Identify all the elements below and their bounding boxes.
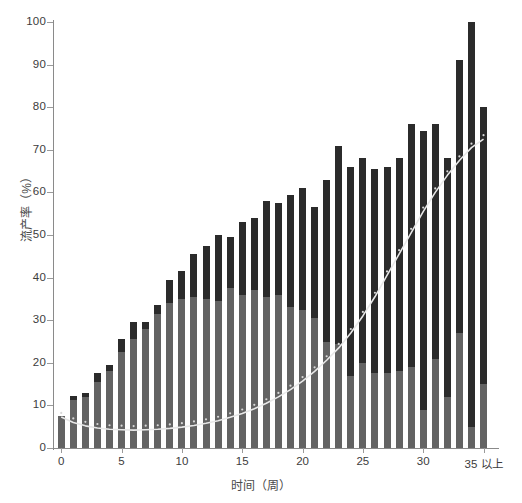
y-tick [47, 192, 53, 193]
y-tick-label: 20 [0, 356, 46, 368]
x-axis-line [53, 448, 499, 449]
x-tick-label: 35 以上 [465, 455, 503, 471]
curve-marker [386, 270, 388, 272]
curve-marker [229, 412, 231, 414]
x-tick-label: 15 [236, 455, 249, 467]
curve-marker [470, 143, 472, 145]
x-tick-label: 5 [118, 455, 124, 467]
x-tick [61, 448, 62, 453]
y-tick [47, 363, 53, 364]
curve-marker [374, 292, 376, 294]
x-tick-label: 30 [417, 455, 430, 467]
y-tick [47, 448, 53, 449]
y-tick-label: 60 [0, 185, 46, 197]
curve-marker [253, 404, 255, 406]
x-axis-title: 时间（周） [0, 476, 522, 493]
curve-marker [434, 187, 436, 189]
curve-marker [193, 420, 195, 422]
x-tick [242, 448, 243, 453]
x-tick [423, 448, 424, 453]
y-tick [47, 22, 53, 23]
curve-marker [458, 155, 460, 157]
curve-marker [446, 170, 448, 172]
x-tick [484, 448, 485, 453]
y-tick [47, 235, 53, 236]
x-tick-label: 25 [356, 455, 369, 467]
y-tick [47, 150, 53, 151]
curve-marker [181, 422, 183, 424]
y-tick-label: 80 [0, 100, 46, 112]
curve-marker [108, 424, 110, 426]
curve-marker [422, 206, 424, 208]
curve-marker [169, 423, 171, 425]
curve-marker [482, 134, 484, 136]
plot-area [54, 22, 498, 448]
y-tick [47, 65, 53, 66]
y-tick-label: 90 [0, 58, 46, 70]
curve-marker [120, 425, 122, 427]
curve-marker [72, 417, 74, 419]
x-tick-label: 0 [58, 455, 64, 467]
curve-marker [410, 228, 412, 230]
x-tick-label: 20 [296, 455, 309, 467]
y-tick-label: 40 [0, 271, 46, 283]
fitted-curve [54, 22, 498, 448]
y-tick-label: 30 [0, 313, 46, 325]
x-tick [122, 448, 123, 453]
curve-marker [277, 392, 279, 394]
curve-marker [289, 385, 291, 387]
y-tick-label: 70 [0, 143, 46, 155]
curve-marker [362, 311, 364, 313]
curve-marker [217, 416, 219, 418]
y-tick-label: 100 [0, 15, 46, 27]
y-tick [47, 405, 53, 406]
curve-marker [398, 249, 400, 251]
y-tick [47, 320, 53, 321]
curve-marker [145, 425, 147, 427]
curve-marker [265, 398, 267, 400]
curve-marker [350, 328, 352, 330]
y-tick-label: 50 [0, 228, 46, 240]
curve-marker [60, 412, 62, 414]
curve-marker [241, 408, 243, 410]
x-tick [363, 448, 364, 453]
x-tick-label: 10 [175, 455, 188, 467]
curve-marker [96, 423, 98, 425]
x-tick [182, 448, 183, 453]
curve-marker [326, 355, 328, 357]
curve-marker [205, 418, 207, 420]
x-tick [303, 448, 304, 453]
abortion-rate-chart: 流产率（%） 时间（周） 0102030405060708090100 0510… [0, 0, 522, 503]
curve-marker [314, 366, 316, 368]
curve-path [61, 139, 483, 430]
curve-marker [133, 425, 135, 427]
y-tick [47, 107, 53, 108]
curve-marker [338, 343, 340, 345]
y-tick-label: 10 [0, 398, 46, 410]
curve-marker [84, 421, 86, 423]
y-tick [47, 278, 53, 279]
curve-marker [157, 424, 159, 426]
curve-marker [301, 376, 303, 378]
y-tick-label: 0 [0, 441, 46, 453]
